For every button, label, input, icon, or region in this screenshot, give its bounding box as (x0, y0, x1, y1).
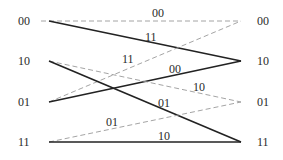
edge-label-01-to-00: 11 (122, 52, 134, 66)
left-state-label: 10 (18, 54, 30, 68)
right-state-label: 11 (257, 135, 269, 149)
left-state-label: 01 (18, 95, 30, 109)
trellis-diagram: 00 10 01 11 00 10 01 11 00 11 11 00 10 0… (0, 0, 283, 160)
edge-label-00-to-00: 00 (152, 6, 164, 20)
edge-11-to-01 (49, 102, 241, 142)
right-state-label: 01 (257, 95, 269, 109)
right-state-label: 00 (257, 14, 269, 28)
edge-label-11-to-11: 10 (158, 129, 170, 143)
right-state-label: 10 (257, 54, 269, 68)
edge-label-00-to-10: 11 (145, 30, 157, 44)
edge-10-to-11 (49, 61, 241, 142)
edge-label-01-to-10: 00 (169, 62, 181, 76)
left-state-label: 00 (18, 14, 30, 28)
edge-label-10-to-11: 01 (158, 96, 170, 110)
left-state-label: 11 (18, 135, 30, 149)
edge-label-10-to-01: 10 (193, 80, 205, 94)
edge-label-11-to-01: 01 (106, 115, 118, 129)
